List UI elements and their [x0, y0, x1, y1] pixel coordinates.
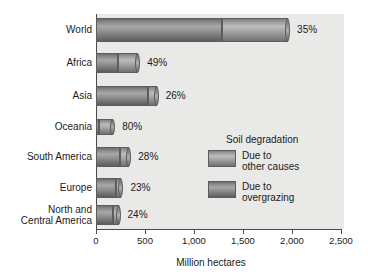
- bar-end-cap: [126, 147, 131, 167]
- bar-segment-overgrazing[interactable]: [96, 147, 120, 167]
- legend-item-overgrazing[interactable]: Due to overgrazing: [208, 181, 338, 203]
- x-tick-mark: [292, 229, 293, 234]
- bar-value-label: 24%: [128, 209, 148, 220]
- bar-segment-other-causes[interactable]: [222, 18, 288, 42]
- x-axis-line: [96, 229, 342, 230]
- bar-end-cap: [135, 53, 140, 73]
- bar-segment-overgrazing[interactable]: [96, 18, 222, 42]
- x-axis-title: Million hectares: [0, 257, 368, 268]
- bar-end-cap: [118, 178, 123, 198]
- bar-value-label: 26%: [166, 90, 186, 101]
- x-tick-mark: [145, 229, 146, 234]
- legend-item-other-causes[interactable]: Due to other causes: [208, 150, 338, 172]
- legend-label-overgrazing: Due to overgrazing: [242, 181, 294, 203]
- x-tick-label: 0: [93, 235, 98, 246]
- x-tick-label: 1,500: [231, 235, 255, 246]
- bar-end-cap: [154, 86, 159, 106]
- bar-value-label: 49%: [147, 57, 167, 68]
- x-tick-label: 500: [137, 235, 153, 246]
- legend-title: Soil degradation: [226, 134, 338, 145]
- bar-segment-overgrazing[interactable]: [96, 86, 148, 106]
- x-tick-mark: [243, 229, 244, 234]
- bar-end-cap: [110, 119, 115, 135]
- x-tick-mark: [194, 229, 195, 234]
- bar-value-label: 23%: [130, 182, 150, 193]
- x-tick-label: 2,000: [280, 235, 304, 246]
- bar-segment-overgrazing[interactable]: [96, 178, 116, 198]
- legend-swatch-overgrazing: [208, 181, 236, 198]
- bar-row[interactable]: 26%: [0, 86, 368, 106]
- bar-value-label: 28%: [138, 151, 158, 162]
- x-tick-mark: [96, 229, 97, 234]
- legend-swatch-other-causes: [208, 150, 236, 167]
- bar-value-label: 35%: [297, 24, 317, 35]
- legend-label-other-causes: Due to other causes: [242, 150, 299, 172]
- x-tick-label: 1,000: [182, 235, 206, 246]
- bar-end-cap: [285, 18, 290, 42]
- x-tick-mark: [341, 229, 342, 234]
- soil-degradation-bar-chart: 05001,0001,5002,0002,500 WorldAfricaAsia…: [0, 0, 368, 280]
- bar-value-label: 80%: [122, 121, 142, 132]
- bar-segment-overgrazing[interactable]: [96, 205, 113, 225]
- bar-row[interactable]: 49%: [0, 53, 368, 73]
- legend: Soil degradation Due to other causes Due…: [208, 134, 338, 212]
- bar-end-cap: [116, 205, 121, 225]
- x-tick-label: 2,500: [329, 235, 353, 246]
- bar-row[interactable]: 35%: [0, 18, 368, 42]
- bar-row[interactable]: 80%: [0, 119, 368, 135]
- bar-segment-overgrazing[interactable]: [96, 53, 118, 73]
